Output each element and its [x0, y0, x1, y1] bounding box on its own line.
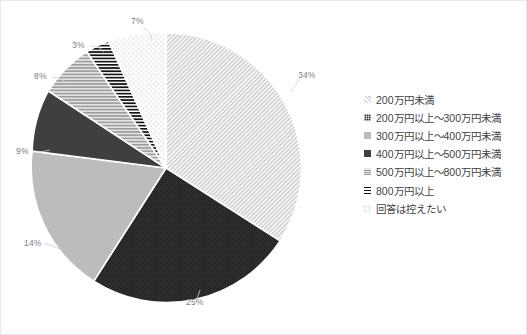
- legend-item-3[interactable]: 400万円以上～500万円未満: [364, 145, 524, 163]
- pie-chart-area: 7% 3% 8% 9% 14% 25% 34%: [0, 0, 340, 335]
- legend-swatch-solid-light-gray-icon: [364, 132, 371, 139]
- legend-item-6[interactable]: 回答は控えたい: [364, 199, 524, 217]
- legend-swatch-horizontal-lines-black-icon: [364, 187, 371, 194]
- legend-swatch-solid-dark-gray-icon: [364, 150, 371, 157]
- pie-label-34: 34%: [298, 70, 316, 80]
- legend-swatch-sparse-dots-light-icon: [364, 205, 371, 212]
- legend-item-0[interactable]: 200万円未満: [364, 90, 524, 108]
- pie-label-3: 3%: [72, 40, 85, 50]
- legend-label-6: 回答は控えたい: [376, 201, 446, 216]
- pie-label-25: 25%: [186, 297, 204, 307]
- pie-label-7: 7%: [131, 16, 144, 26]
- legend-label-1: 200万円以上～300万円未満: [376, 110, 501, 125]
- legend-swatch-dense-dot-dark-icon: [364, 114, 371, 121]
- legend-swatch-diagonal-hatch-icon: [364, 96, 371, 103]
- legend-label-5: 800万円以上: [376, 183, 434, 198]
- legend-item-4[interactable]: 500万円以上～800万円未満: [364, 163, 524, 181]
- leader-line-34: [290, 78, 300, 92]
- legend-label-2: 300万円以上～400万円未満: [376, 128, 501, 143]
- pie-label-8: 8%: [34, 71, 47, 81]
- chart-legend: 200万円未満 200万円以上～300万円未満 300万円以上～400万円未満 …: [364, 90, 524, 217]
- legend-item-2[interactable]: 300万円以上～400万円未満: [364, 126, 524, 144]
- legend-item-1[interactable]: 200万円以上～300万円未満: [364, 108, 524, 126]
- pie-label-9: 9%: [16, 146, 29, 156]
- legend-item-5[interactable]: 800万円以上: [364, 181, 524, 199]
- pie-label-14: 14%: [24, 238, 42, 248]
- pie-chart-svg: [0, 0, 340, 335]
- legend-label-3: 400万円以上～500万円未満: [376, 146, 501, 161]
- legend-label-4: 500万円以上～800万円未満: [376, 164, 501, 179]
- legend-label-0: 200万円未満: [376, 92, 434, 107]
- legend-swatch-horizontal-lines-gray-icon: [364, 168, 371, 175]
